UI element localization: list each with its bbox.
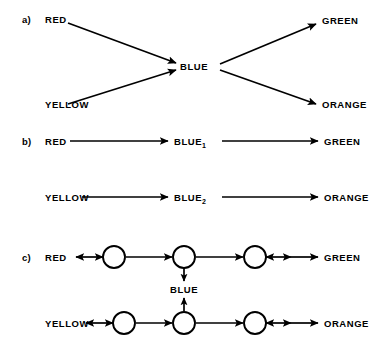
panel-c-row-top bbox=[76, 246, 318, 268]
panel-c-label-green: GREEN bbox=[324, 252, 361, 263]
panel-a-label-green: GREEN bbox=[322, 15, 359, 26]
panel-b-label-blue2: BLUE2 bbox=[174, 192, 206, 204]
node-unit-1 bbox=[103, 246, 125, 268]
panel-a-label-red: RED bbox=[45, 14, 67, 25]
panel-c-label-blue: BLUE bbox=[170, 284, 198, 295]
panel-a-tag: a) bbox=[22, 14, 31, 25]
panel-b-label-blue2-base: BLUE bbox=[174, 192, 202, 203]
panel-a-label-yellow: YELLOW bbox=[45, 99, 89, 110]
edge-red-to-blue bbox=[68, 23, 176, 63]
panel-b-label-blue2-subscript: 2 bbox=[202, 198, 206, 205]
panel-c-row-bottom bbox=[86, 312, 318, 334]
panel-c-label-orange: ORANGE bbox=[324, 318, 369, 329]
node-unit-6 bbox=[244, 312, 266, 334]
panel-b-label-red: RED bbox=[45, 136, 67, 147]
panel-a-label-orange: ORANGE bbox=[322, 99, 367, 110]
panel-b-tag: b) bbox=[22, 136, 32, 147]
panel-b-label-blue1: BLUE1 bbox=[174, 136, 206, 148]
node-unit-4 bbox=[113, 312, 135, 334]
panel-a-label-blue: BLUE bbox=[180, 61, 208, 72]
panel-c-tag: c) bbox=[22, 252, 31, 263]
edge-blue-to-orange bbox=[220, 70, 316, 104]
panel-b-label-blue1-base: BLUE bbox=[174, 136, 202, 147]
panel-c-label-red: RED bbox=[45, 252, 67, 263]
panel-b-edges bbox=[70, 141, 318, 197]
edge-blue-to-green bbox=[220, 24, 316, 64]
panel-b-label-yellow: YELLOW bbox=[45, 192, 89, 203]
node-unit-3 bbox=[244, 246, 266, 268]
node-unit-2 bbox=[173, 246, 195, 268]
figure-canvas: a) RED YELLOW BLUE GREEN ORANGE b) RED B… bbox=[0, 0, 383, 347]
panel-b-label-orange: ORANGE bbox=[324, 192, 369, 203]
node-unit-5 bbox=[173, 312, 195, 334]
panel-b-label-green: GREEN bbox=[324, 136, 361, 147]
panel-c-label-yellow: YELLOW bbox=[45, 318, 89, 329]
panel-b-label-blue1-subscript: 1 bbox=[202, 142, 206, 149]
